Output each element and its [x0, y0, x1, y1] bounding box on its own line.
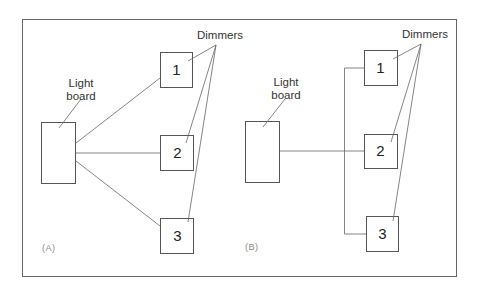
dimmer-a-2-number: 2 [161, 144, 194, 161]
dimmer-a-3-number: 3 [161, 227, 194, 244]
dimmers-label-a: Dimmers [196, 29, 244, 42]
light-board-label-b-line2: board [268, 89, 304, 102]
diagram-lines [0, 0, 478, 284]
light-board-label-a-line2: board [63, 90, 99, 103]
dimmers-label-b: Dimmers [401, 28, 449, 41]
panel-tag-b: (B) [245, 242, 259, 252]
dimmer-b-1-number: 1 [364, 59, 397, 76]
dimmer-b-2-number: 2 [364, 142, 397, 159]
light-board-a [42, 123, 76, 184]
light-board-label-a-line1: Light [63, 77, 99, 90]
dimmer-a-1-number: 1 [160, 61, 193, 78]
light-board-b [246, 122, 280, 183]
dimmer-b-3-number: 3 [366, 225, 399, 242]
light-board-label-b-line1: Light [268, 76, 304, 89]
light-board-label-a: Light board [63, 77, 99, 103]
light-board-label-b: Light board [268, 76, 304, 102]
panel-tag-a: (A) [42, 243, 56, 253]
